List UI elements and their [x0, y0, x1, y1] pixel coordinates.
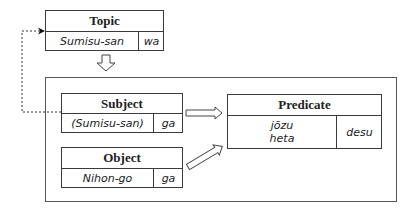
diagonal-arrow-icon: [185, 141, 225, 172]
right-arrow-icon: [186, 107, 222, 119]
down-arrow-icon: [97, 55, 115, 71]
arrows-layer: [0, 0, 415, 213]
dotted-link-arrow: [22, 28, 61, 113]
